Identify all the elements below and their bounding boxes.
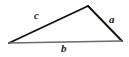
triangle-side-c-label: c	[34, 10, 39, 21]
triangle-side-c-line	[9, 6, 88, 43]
triangle-figure: c a b	[0, 0, 129, 57]
triangle-side-b-label: b	[61, 43, 67, 54]
triangle-side-a-label: a	[109, 14, 115, 25]
triangle-side-a-line	[88, 6, 122, 41]
